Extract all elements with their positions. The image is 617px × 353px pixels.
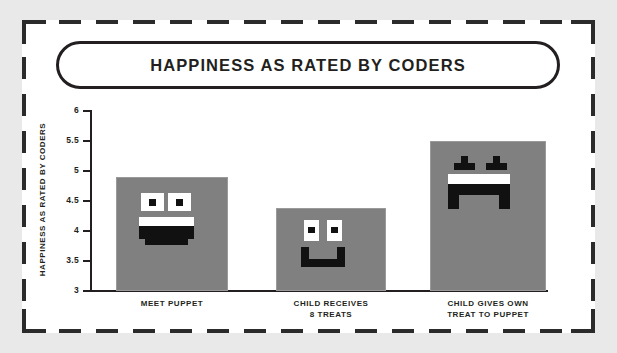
y-tick-label: 5.5 [53, 135, 79, 145]
face-pixel [176, 199, 183, 206]
face-pixel [149, 199, 156, 206]
face-pixel [448, 195, 459, 209]
x-axis-label-line: TREAT TO PUPPET [400, 309, 576, 320]
x-axis-label-line: CHILD GIVES OWN [400, 298, 576, 309]
x-axis-label: CHILD RECEIVES8 TREATS [246, 298, 416, 320]
face-pixel [331, 227, 338, 233]
face-pixel [145, 239, 188, 245]
face-pixel [454, 163, 461, 170]
y-tick-label: 3 [53, 285, 79, 295]
y-tick-mark [83, 140, 90, 142]
chart-screenshot: HAPPINESS AS RATED BY CODERS HAPPINESS A… [0, 0, 617, 353]
y-tick-mark [83, 110, 90, 112]
face-pixel [500, 163, 507, 170]
y-tick-label: 6 [53, 105, 79, 115]
y-tick-label: 3.5 [53, 255, 79, 265]
face-pixel [301, 259, 345, 267]
x-axis-label: MEET PUPPET [86, 298, 258, 309]
y-tick-mark [83, 200, 90, 202]
x-axis-label-line: 8 TREATS [246, 309, 416, 320]
face-pixel [493, 156, 500, 163]
bar [276, 208, 386, 291]
face-pixel [468, 163, 475, 170]
bar [116, 177, 228, 291]
y-tick-mark [83, 260, 90, 262]
face-pixel [448, 184, 510, 195]
y-tick-mark [83, 170, 90, 172]
face-pixel [139, 226, 194, 239]
y-tick-mark [83, 230, 90, 232]
x-axis-label-line: CHILD RECEIVES [246, 298, 416, 309]
x-axis-label: CHILD GIVES OWNTREAT TO PUPPET [400, 298, 576, 320]
y-tick-label: 4 [53, 225, 79, 235]
y-axis-title: HAPPINESS AS RATED BY CODERS [38, 105, 47, 295]
plot-area: HAPPINESS AS RATED BY CODERS 33.544.555.… [0, 0, 617, 353]
face-pixel [448, 174, 510, 184]
bar [430, 141, 546, 291]
face-pixel [461, 163, 468, 170]
face-pixel [139, 217, 194, 226]
y-axis-line [90, 110, 92, 292]
face-pixel [461, 156, 468, 163]
face-pixel [493, 163, 500, 170]
face-pixel [486, 163, 493, 170]
face-pixel [499, 195, 510, 209]
y-tick-mark [83, 290, 90, 292]
y-tick-label: 4.5 [53, 195, 79, 205]
x-axis-label-line: MEET PUPPET [86, 298, 258, 309]
face-pixel [308, 227, 315, 233]
y-tick-label: 5 [53, 165, 79, 175]
